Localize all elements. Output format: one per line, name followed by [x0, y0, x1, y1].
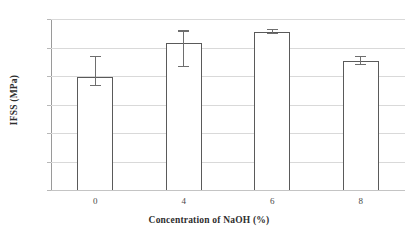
error-bar-cap-top [267, 29, 278, 30]
y-tick-mark-10 [47, 133, 51, 134]
gridline-0 [51, 190, 405, 191]
y-tick-mark-5 [47, 162, 51, 163]
error-bar-stem [95, 56, 96, 86]
y-tick-mark-25 [47, 48, 51, 49]
error-bar-cap-bottom [267, 33, 278, 34]
gridline-30 [51, 19, 405, 20]
bar-0 [77, 77, 113, 190]
error-bar-cap-bottom [90, 85, 101, 86]
x-tick-label-4: 4 [154, 196, 214, 206]
bar-6 [254, 32, 290, 190]
error-bar-cap-top [90, 56, 101, 57]
error-bar-6 [262, 29, 282, 34]
y-axis-title-text: IFSS (MPa) [9, 75, 19, 125]
error-bar-0 [85, 56, 105, 86]
y-tick-mark-20 [47, 76, 51, 77]
error-bar-cap-top [178, 30, 189, 31]
error-bar-cap-top [355, 56, 366, 57]
y-tick-mark-15 [47, 105, 51, 106]
error-bar-stem [183, 30, 184, 67]
error-bar-cap-bottom [178, 66, 189, 67]
plot-area: 051015202530 [51, 19, 405, 190]
y-axis-title: IFSS (MPa) [2, 0, 26, 200]
x-tick-label-0: 0 [65, 196, 125, 206]
error-bar-cap-bottom [355, 64, 366, 65]
x-tick-label-6: 6 [242, 196, 302, 206]
x-axis-title: Concentration of NaOH (%) [0, 215, 418, 225]
y-tick-mark-0 [47, 190, 51, 191]
error-bar-4 [174, 30, 194, 67]
x-tick-label-8: 8 [331, 196, 391, 206]
bar-chart: IFSS (MPa) 051015202530 Concentration of… [0, 0, 418, 241]
bar-8 [343, 61, 379, 190]
y-tick-mark-30 [47, 19, 51, 20]
error-bar-8 [351, 56, 371, 65]
gridline-25 [51, 48, 405, 49]
